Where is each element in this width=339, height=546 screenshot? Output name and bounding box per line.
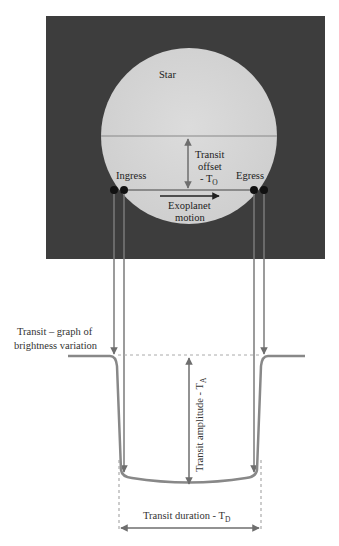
- graph-label-2: brightness variation: [14, 340, 98, 351]
- planet-egress-inner: [250, 186, 258, 194]
- transit-offset-label-2: offset: [198, 161, 222, 172]
- ingress-label: Ingress: [116, 170, 146, 181]
- light-curve: [68, 356, 305, 483]
- transit-offset-symbol: - T: [200, 173, 213, 184]
- planet-ingress-outer: [110, 186, 118, 194]
- star-label: Star: [159, 69, 176, 80]
- exoplanet-transit-diagram: Star Transit offset - TO Ingress Egress …: [0, 0, 339, 546]
- transit-duration-subscript: D: [225, 515, 231, 524]
- transit-duration-label: Transit duration - TD: [143, 510, 231, 524]
- exoplanet-motion-label-2: motion: [175, 212, 206, 223]
- transit-amplitude-text: Transit amplitude - T: [194, 382, 205, 472]
- transit-duration-text: Transit duration - T: [143, 510, 226, 521]
- transit-offset-label-1: Transit: [195, 149, 224, 160]
- egress-label: Egress: [236, 170, 264, 181]
- exoplanet-motion-label-1: Exoplanet: [168, 200, 211, 211]
- planet-egress-outer: [260, 186, 268, 194]
- transit-offset-subscript: O: [212, 178, 218, 187]
- transit-amplitude-label: Transit amplitude - TA: [194, 377, 208, 472]
- graph-label-1: Transit – graph of: [17, 326, 93, 337]
- planet-ingress-inner: [120, 186, 128, 194]
- transit-amplitude-subscript: A: [199, 377, 208, 383]
